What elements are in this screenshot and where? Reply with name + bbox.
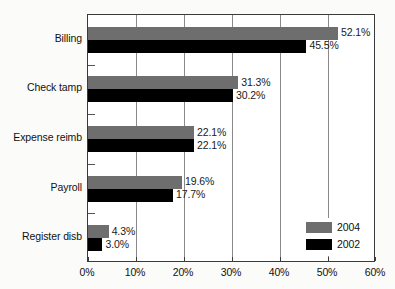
x-axis-tick-mark	[88, 257, 89, 261]
bar-value-label: 52.1%	[341, 26, 370, 39]
category-label: Expense reimb	[13, 131, 82, 143]
legend: 2004 2002	[306, 218, 370, 256]
x-axis-tick-label: 50%	[317, 266, 338, 278]
legend-item-2004: 2004	[306, 220, 370, 235]
legend-swatch-2004-icon	[306, 222, 332, 233]
legend-swatch-2002-icon	[306, 239, 332, 250]
bar	[88, 189, 173, 202]
bar	[88, 126, 194, 139]
x-axis-tick-mark	[375, 257, 376, 261]
bar-chart: 52.1%45.5%31.3%30.2%22.1%22.1%19.6%17.7%…	[0, 0, 395, 289]
bar	[88, 89, 233, 102]
bar-value-label: 45.5%	[309, 39, 338, 52]
category-separator-tick	[88, 164, 95, 165]
bar-value-label: 19.6%	[185, 175, 214, 188]
bar	[88, 27, 338, 40]
bar	[88, 176, 182, 189]
category-separator-tick	[88, 114, 95, 115]
legend-label-2004: 2004	[337, 222, 360, 233]
legend-label-2002: 2002	[337, 239, 360, 250]
x-axis-tick-label: 30%	[221, 266, 242, 278]
category-separator-tick	[88, 65, 95, 66]
x-axis-tick-label: 60%	[365, 266, 386, 278]
x-axis-tick-label: 10%	[125, 266, 146, 278]
bar-value-label: 31.3%	[241, 76, 270, 89]
x-axis-tick-mark	[328, 257, 329, 261]
bar	[88, 225, 109, 238]
x-axis-tick-label: 40%	[269, 266, 290, 278]
x-axis-tick-mark	[232, 257, 233, 261]
bar	[88, 139, 194, 152]
category-separator-tick	[88, 213, 95, 214]
bar	[88, 76, 238, 89]
bar-value-label: 3.0%	[105, 238, 129, 251]
bar	[88, 40, 306, 53]
category-label: Check tamp	[27, 81, 82, 93]
x-axis-tick-mark	[280, 257, 281, 261]
category-label: Payroll	[51, 181, 82, 193]
bar-value-label: 22.1%	[197, 139, 226, 152]
x-axis-tick-label: 20%	[173, 266, 194, 278]
bar-value-label: 22.1%	[197, 126, 226, 139]
bar-value-label: 4.3%	[112, 225, 136, 238]
bar	[88, 238, 102, 251]
legend-item-2002: 2002	[306, 237, 370, 252]
category-label: Register disb	[22, 230, 82, 242]
bar-value-label: 17.7%	[176, 188, 205, 201]
category-label: Billing	[55, 32, 82, 44]
x-axis-tick-label: 0%	[80, 266, 95, 278]
bar-value-label: 30.2%	[236, 89, 265, 102]
x-axis-tick-mark	[136, 257, 137, 261]
x-axis-tick-mark	[184, 257, 185, 261]
